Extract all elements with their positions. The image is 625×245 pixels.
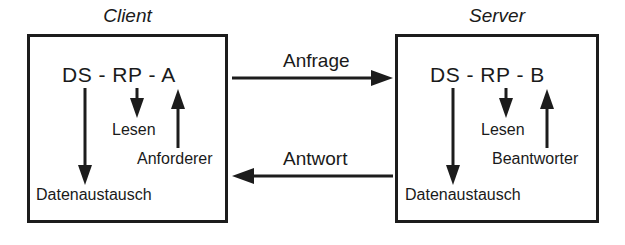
server-protocol-stack-label: DS - RP - B bbox=[430, 64, 545, 85]
client-data-exchange-label: Datenaustausch bbox=[36, 187, 152, 203]
server-box-title: Server bbox=[395, 6, 599, 25]
client-read-label: Lesen bbox=[112, 122, 156, 138]
client-role-label: Anforderer bbox=[137, 151, 213, 167]
client-server-diagram: Client DS - RP - A Lesen Anforderer Date… bbox=[0, 0, 625, 245]
request-message-label: Anfrage bbox=[283, 51, 350, 70]
server-role-label: Beantworter bbox=[492, 151, 578, 167]
server-read-label: Lesen bbox=[481, 122, 525, 138]
response-message-arrow bbox=[232, 168, 393, 184]
response-message-label: Antwort bbox=[283, 149, 347, 168]
request-message-arrow bbox=[232, 70, 393, 86]
client-box-title: Client bbox=[27, 6, 228, 25]
server-data-exchange-label: Datenaustausch bbox=[405, 187, 521, 203]
client-protocol-stack-label: DS - RP - A bbox=[62, 64, 176, 85]
